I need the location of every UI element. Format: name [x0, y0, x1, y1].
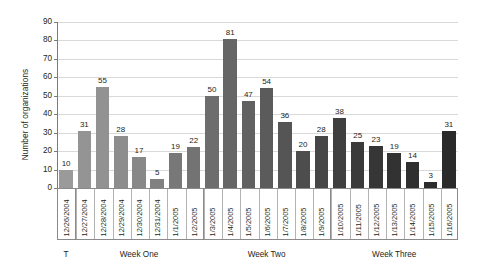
y-tick-mark [54, 151, 58, 152]
x-label-separator [350, 189, 351, 239]
y-tick-mark [54, 114, 58, 115]
x-label-separator [240, 189, 241, 239]
y-tick-label: 20 [43, 147, 52, 155]
x-label-separator [167, 189, 168, 239]
x-axis-label: 1/16/2005 [445, 203, 452, 236]
bar-value-label: 38 [330, 108, 348, 116]
bar[interactable] [351, 142, 364, 188]
bar-slot: 25 [349, 22, 367, 188]
x-axis-label: 12/26/2004 [63, 199, 70, 236]
bar[interactable] [406, 162, 419, 188]
bar[interactable] [387, 153, 400, 188]
y-tick-mark [54, 40, 58, 41]
bar-value-label: 31 [440, 121, 458, 129]
x-label-separator [94, 189, 95, 239]
group-divider [75, 188, 76, 240]
bar-slot: 54 [258, 22, 276, 188]
x-axis-label: 1/7/2005 [281, 207, 288, 236]
bar[interactable] [260, 88, 273, 188]
group-label: Week Three [330, 251, 458, 259]
bar[interactable] [205, 96, 218, 188]
bar-slot: 31 [440, 22, 458, 188]
bar[interactable] [369, 146, 382, 188]
bar-slot: 81 [221, 22, 239, 188]
group-label: Week Two [203, 251, 331, 259]
y-tick-label: 70 [43, 55, 52, 63]
bar[interactable] [59, 170, 72, 188]
bar-slot: 23 [367, 22, 385, 188]
bar-value-label: 25 [349, 132, 367, 140]
bar[interactable] [96, 87, 109, 188]
x-axis-label: 12/29/2004 [117, 199, 124, 236]
bar[interactable] [315, 136, 328, 188]
group-divider [203, 188, 204, 240]
y-tick-label: 50 [43, 92, 52, 100]
y-tick-mark [54, 170, 58, 171]
bar[interactable] [333, 118, 346, 188]
bar-slot: 31 [75, 22, 93, 188]
bar[interactable] [223, 39, 236, 188]
x-label-separator [386, 189, 387, 239]
x-label-separator [259, 189, 260, 239]
bar-value-label: 23 [367, 136, 385, 144]
y-tick-label: 0 [47, 184, 52, 192]
bar[interactable] [187, 147, 200, 188]
x-label-separator [186, 189, 187, 239]
bar-slot: 10 [57, 22, 75, 188]
bar-value-label: 17 [130, 147, 148, 155]
group-label: T [57, 251, 75, 259]
x-axis-label: 1/13/2005 [391, 203, 398, 236]
bar[interactable] [78, 131, 91, 188]
x-axis-label: 1/1/2005 [172, 207, 179, 236]
x-axis-label-strip: 12/26/200412/27/200412/28/200412/29/2004… [57, 188, 458, 240]
x-label-separator [368, 189, 369, 239]
bar-chart: Number of organizations 1031552817519225… [0, 0, 482, 277]
y-axis-title: Number of organizations [21, 30, 30, 200]
bar[interactable] [242, 101, 255, 188]
bar-value-label: 22 [185, 137, 203, 145]
x-axis-label: 1/15/2005 [427, 203, 434, 236]
bar-value-label: 50 [203, 86, 221, 94]
x-axis-label: 1/12/2005 [373, 203, 380, 236]
y-tick-label: 60 [43, 73, 52, 81]
x-label-separator [222, 189, 223, 239]
x-axis-label: 12/31/2004 [154, 199, 161, 236]
bar[interactable] [150, 179, 163, 188]
y-tick-mark [54, 133, 58, 134]
bar-slot: 19 [166, 22, 184, 188]
x-axis-label: 1/2/2005 [190, 207, 197, 236]
bar[interactable] [296, 151, 309, 188]
bar-value-label: 10 [57, 160, 75, 168]
bar[interactable] [114, 136, 127, 188]
x-axis-label: 12/27/2004 [81, 199, 88, 236]
x-axis-label: 1/11/2005 [354, 204, 361, 236]
bar-value-label: 36 [276, 112, 294, 120]
x-axis-label: 1/8/2005 [300, 207, 307, 236]
bar-slot: 5 [148, 22, 166, 188]
bar-value-label: 47 [239, 91, 257, 99]
bar-slot: 19 [385, 22, 403, 188]
bar[interactable] [278, 122, 291, 188]
x-label-separator [295, 189, 296, 239]
x-label-separator [404, 189, 405, 239]
y-tick-mark [54, 96, 58, 97]
x-axis-label: 12/30/2004 [136, 199, 143, 236]
y-tick-label: 30 [43, 129, 52, 137]
x-label-separator [441, 189, 442, 239]
bar[interactable] [132, 157, 145, 188]
x-label-separator [113, 189, 114, 239]
bar[interactable] [442, 131, 455, 188]
x-label-separator [277, 189, 278, 239]
bar[interactable] [169, 153, 182, 188]
bar-value-label: 31 [75, 121, 93, 129]
bar-slot: 22 [185, 22, 203, 188]
bar-slot: 17 [130, 22, 148, 188]
x-label-separator [149, 189, 150, 239]
bar-value-label: 14 [403, 152, 421, 160]
bar-slot: 28 [312, 22, 330, 188]
x-axis-label: 1/3/2005 [209, 207, 216, 236]
x-axis-label: 1/10/2005 [336, 203, 343, 236]
x-label-separator [331, 189, 332, 239]
x-axis-label: 1/4/2005 [227, 207, 234, 236]
bar-value-label: 54 [258, 78, 276, 86]
